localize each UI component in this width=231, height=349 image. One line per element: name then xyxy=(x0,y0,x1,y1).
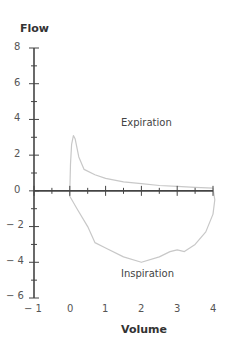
y-tick-label: 8 xyxy=(14,41,20,52)
x-tick-label: − 1 xyxy=(24,303,42,314)
x-tick-label: 2 xyxy=(138,303,144,314)
x-tick-label: 4 xyxy=(210,303,216,314)
y-axis-title: Flow xyxy=(20,22,49,35)
y-tick-label: 6 xyxy=(14,77,20,88)
y-tick-label: 2 xyxy=(14,148,20,159)
chart-canvas xyxy=(0,0,231,349)
x-tick-label: 1 xyxy=(102,303,108,314)
y-tick-label: − 2 xyxy=(6,219,24,230)
y-tick-label: − 6 xyxy=(6,290,24,301)
x-axis-title: Volume xyxy=(121,323,167,336)
x-tick-label: 0 xyxy=(67,303,73,314)
flow-volume-curve xyxy=(70,136,215,263)
y-tick-label: − 4 xyxy=(6,255,24,266)
inspiration-annotation: Inspiration xyxy=(121,268,174,279)
y-tick-label: 0 xyxy=(14,184,20,195)
y-tick-label: 4 xyxy=(14,112,20,123)
expiration-annotation: Expiration xyxy=(121,117,172,128)
x-tick-label: 3 xyxy=(174,303,180,314)
